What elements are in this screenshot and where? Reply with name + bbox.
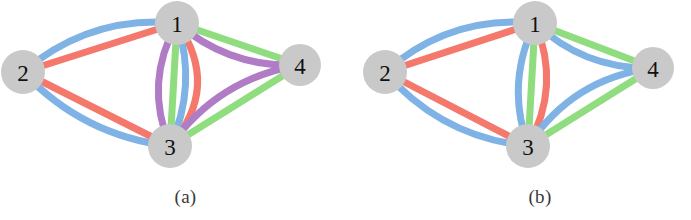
graph-diagram-a: 1234 — [0, 0, 345, 186]
graph-node-2[interactable]: 2 — [363, 50, 407, 94]
node-circle — [513, 1, 557, 45]
graph-node-2[interactable]: 2 — [1, 50, 45, 94]
graph-edge-2-3-red — [385, 72, 528, 146]
graph-node-1[interactable]: 1 — [155, 1, 199, 45]
node-circle — [632, 47, 674, 89]
graph-node-3[interactable]: 3 — [506, 124, 550, 168]
node-circle — [155, 1, 199, 45]
graph-diagram-b: 1234 — [345, 0, 691, 186]
graph-edge-3-4-green — [170, 65, 300, 146]
graph-node-1[interactable]: 1 — [513, 1, 557, 45]
node-circle — [506, 124, 550, 168]
panel-b-caption: (b) — [345, 186, 691, 208]
figure-panel-b: 1234 (b) — [345, 0, 691, 220]
graph-node-4[interactable]: 4 — [279, 44, 321, 86]
graph-node-3[interactable]: 3 — [148, 124, 192, 168]
graph-node-4[interactable]: 4 — [632, 47, 674, 89]
node-circle — [1, 50, 45, 94]
node-circle — [148, 124, 192, 168]
figure-panel-a: 1234 (a) — [0, 0, 345, 220]
panel-a-caption: (a) — [0, 186, 345, 208]
node-circle — [363, 50, 407, 94]
figure-root: 1234 (a) 1234 (b) — [0, 0, 691, 220]
graph-edge-2-3-red — [23, 72, 170, 146]
node-circle — [279, 44, 321, 86]
